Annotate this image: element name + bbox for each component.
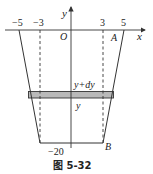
tick-label-pos3: 3 <box>100 17 105 28</box>
x-axis-label: x <box>136 30 142 42</box>
tick-label-neg5: −5 <box>12 17 23 28</box>
tick-label-neg3: −3 <box>33 17 44 28</box>
tick-label-pos5: 5 <box>121 17 126 28</box>
y-axis-label: y <box>61 7 67 19</box>
strip-upper-label: y+dy <box>73 79 95 90</box>
trapezoid-right-side <box>103 30 124 143</box>
origin-label: O <box>60 31 67 42</box>
strip-lower-label: y <box>75 100 81 111</box>
figure-caption: 图 5-32 <box>53 160 92 171</box>
trapezoid-left-side <box>19 30 40 143</box>
trapezoid-figure: y x O −5 −3 3 5 A B y+dy y −20 图 5-32 <box>0 0 153 174</box>
point-label-A: A <box>110 32 118 43</box>
tick-label-neg20: −20 <box>48 146 64 157</box>
point-label-B: B <box>105 141 111 152</box>
